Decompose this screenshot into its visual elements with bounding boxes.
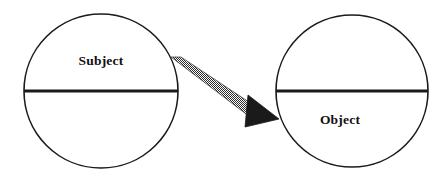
diagram-canvas: Subject Object (0, 0, 444, 181)
arrowhead-icon (245, 95, 279, 127)
node-object[interactable]: Object (274, 15, 430, 167)
diagram-svg: Subject Object (0, 0, 444, 181)
object-label: Object (320, 112, 360, 127)
node-subject[interactable]: Subject (22, 14, 180, 168)
subject-label: Subject (79, 53, 124, 68)
subject-to-object-arrow[interactable] (171, 57, 279, 127)
